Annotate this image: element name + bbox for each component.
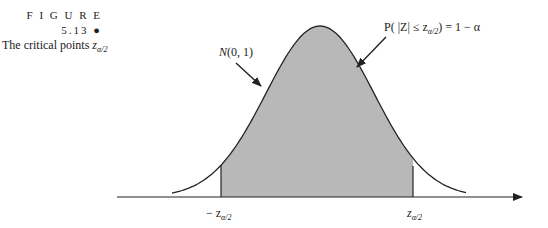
n01-arrow (236, 63, 261, 86)
right-critical-label: zα/2 (406, 206, 422, 222)
left-critical-label: − zα/2 (206, 206, 232, 222)
probability-arrow (357, 37, 386, 67)
distribution-label: N(0, 1) (218, 45, 253, 59)
normal-curve-diagram: N(0, 1) P( |Z| ≤ zα/2) = 1 − α − zα/2 zα… (0, 0, 548, 228)
probability-label: P( |Z| ≤ zα/2) = 1 − α (384, 20, 481, 36)
